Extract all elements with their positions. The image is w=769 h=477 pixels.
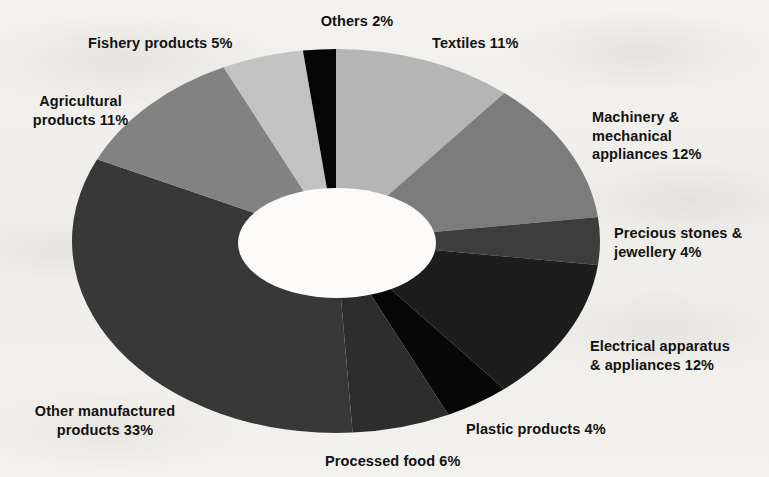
donut-center-hole (238, 188, 436, 298)
slice-label-processed-food: Processed food 6% (325, 452, 515, 471)
slice-label-agricultural-products: Agricultural products 11% (8, 92, 153, 129)
slice-label-others: Others 2% (297, 12, 417, 31)
slice-label-machinery-mechanical-appliances: Machinery & mechanical appliances 12% (592, 108, 767, 164)
slice-label-electrical-apparatus-appliances: Electrical apparatus & appliances 12% (590, 337, 769, 374)
slice-label-fishery-products: Fishery products 5% (88, 34, 288, 53)
slice-label-other-manufactured-products: Other manufactured products 33% (10, 402, 200, 439)
slice-label-plastic-products: Plastic products 4% (466, 420, 646, 439)
donut-chart-figure: Others 2% Textiles 11% Machinery & mecha… (0, 0, 769, 477)
slice-label-precious-stones-jewellery: Precious stones & jewellery 4% (614, 224, 769, 261)
slice-label-textiles: Textiles 11% (432, 34, 612, 53)
